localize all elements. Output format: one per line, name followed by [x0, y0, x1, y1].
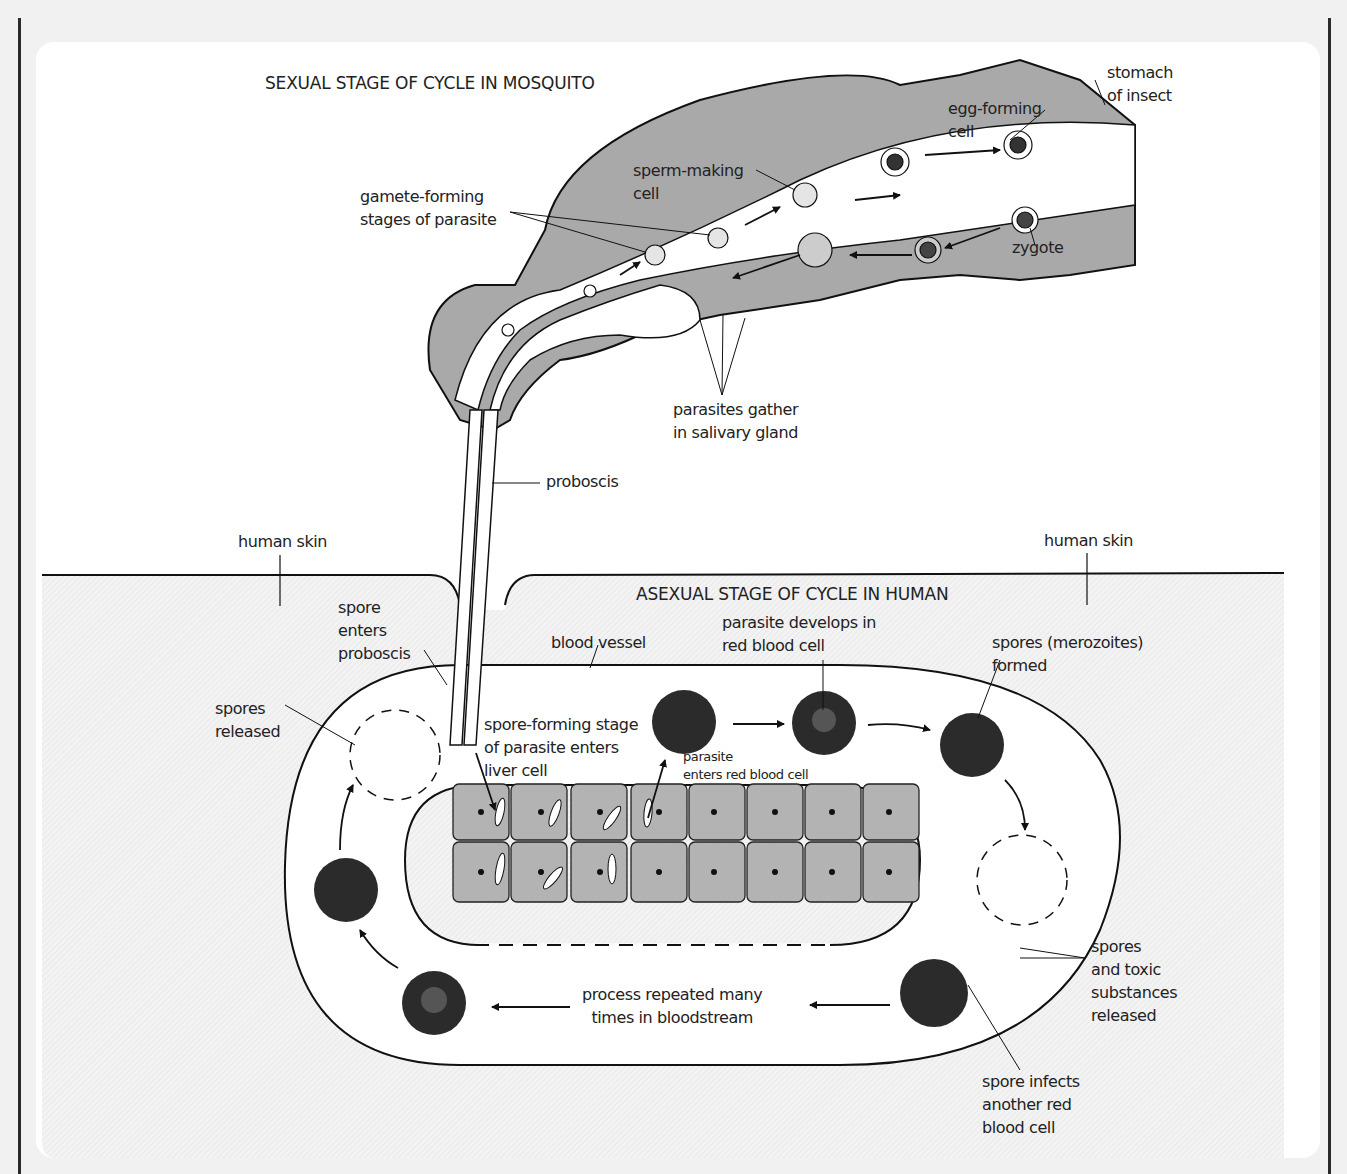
label-sperm-cell: sperm-making cell	[633, 159, 744, 205]
label-process-repeated: process repeated many times in bloodstre…	[582, 983, 762, 1029]
label-spores-released: spores released	[215, 697, 280, 743]
label-spore-enters: spore enters proboscis	[338, 596, 410, 665]
label-skin-left: human skin	[238, 530, 327, 553]
label-stomach: stomach of insect	[1107, 61, 1173, 107]
label-blood-vessel: blood vessel	[551, 631, 646, 654]
label-egg-cell: egg-forming cell	[948, 97, 1042, 143]
label-liver-entry: spore-forming stage of parasite enters l…	[484, 713, 638, 782]
label-proboscis: proboscis	[546, 470, 618, 493]
label-parasite-develops: parasite develops in red blood cell	[722, 611, 876, 657]
label-salivary: parasites gather in salivary gland	[673, 398, 798, 444]
mosquito-stage-title: SEXUAL STAGE OF CYCLE IN MOSQUITO	[265, 72, 595, 95]
label-toxic: spores and toxic substances released	[1091, 935, 1177, 1027]
label-gamete: gamete-forming stages of parasite	[360, 185, 496, 231]
label-skin-right: human skin	[1044, 529, 1133, 552]
label-zygote: zygote	[1012, 236, 1064, 259]
label-parasite-enters-rbc: parasite enters red blood cell	[683, 748, 808, 784]
label-merozoites: spores (merozoites) formed	[992, 631, 1143, 677]
label-spore-infects: spore infects another red blood cell	[982, 1070, 1080, 1139]
human-stage-title: ASEXUAL STAGE OF CYCLE IN HUMAN	[636, 583, 949, 606]
